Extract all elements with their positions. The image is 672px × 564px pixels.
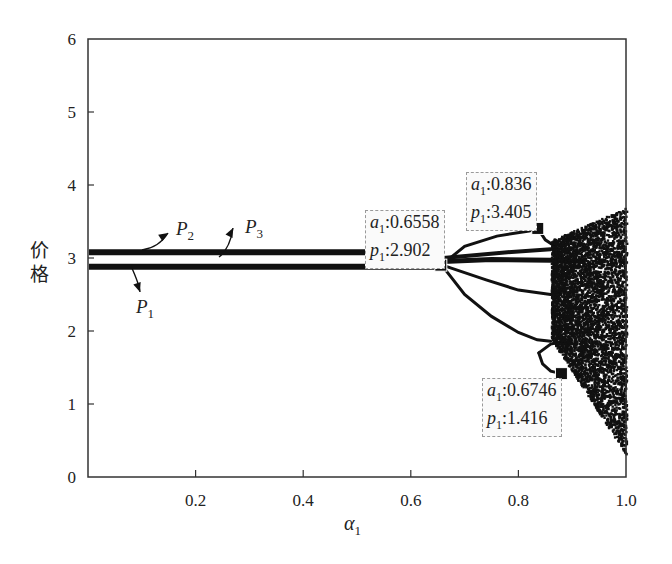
arrowhead-icon — [158, 233, 168, 241]
x-axis-label: α1 — [344, 512, 361, 539]
y-tick-label: 5 — [68, 103, 77, 122]
y-axis-label: 价 格 — [30, 238, 52, 286]
bifurcation-chart: 0123456 0.20.40.60.81.0 — [0, 0, 672, 564]
x-axis: 0.20.40.60.81.0 — [185, 470, 637, 510]
y-tick-label: 0 — [68, 468, 77, 487]
y-tick-label: 6 — [68, 30, 77, 49]
p2-label: P2 — [176, 218, 194, 244]
y-axis: 0123456 — [68, 30, 95, 487]
arrowhead-icon — [133, 282, 140, 292]
bifurcation-branch — [443, 265, 551, 294]
x-tick-label: 0.6 — [400, 491, 421, 510]
y-tick-label: 3 — [68, 249, 77, 268]
p3-label: P3 — [245, 216, 263, 242]
y-tick-label: 1 — [68, 395, 77, 414]
x-tick-label: 0.8 — [508, 491, 529, 510]
x-tick-label: 0.4 — [293, 491, 315, 510]
chaos-region — [551, 208, 629, 456]
x-tick-label: 0.2 — [185, 491, 206, 510]
y-tick-label: 4 — [68, 176, 77, 195]
y-tick-label: 2 — [68, 322, 77, 341]
p1-label: P1 — [136, 296, 154, 322]
annotation-box-0.6746: a1:0.6746 p1:1.416 — [482, 378, 562, 437]
x-tick-label: 1.0 — [615, 491, 636, 510]
annotation-box-0.836: a1:0.836 p1:3.405 — [466, 172, 537, 231]
bifurcation-branch — [443, 267, 551, 341]
arrowhead-icon — [225, 228, 233, 238]
annotation-box-0.6558: a1:0.6558 p1:2.902 — [365, 210, 445, 269]
